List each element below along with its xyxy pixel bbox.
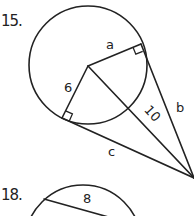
problem-number-15: 15. [1, 12, 22, 30]
label-8: 8 [83, 191, 91, 206]
chord-8 [44, 199, 112, 216]
geometry-figure: 15. a 6 10 b c 18. 8 [0, 0, 194, 216]
label-a: a [106, 37, 114, 52]
problem-18: 18. 8 [1, 185, 141, 216]
circle-15 [29, 6, 147, 124]
problem-number-18: 18. [1, 186, 22, 204]
label-c: c [108, 144, 115, 159]
right-angle-mark-upper [133, 47, 143, 54]
problem-15: 15. a 6 10 b c [1, 6, 194, 178]
label-b: b [176, 100, 184, 115]
label-10: 10 [141, 102, 163, 124]
label-6: 6 [64, 80, 72, 95]
